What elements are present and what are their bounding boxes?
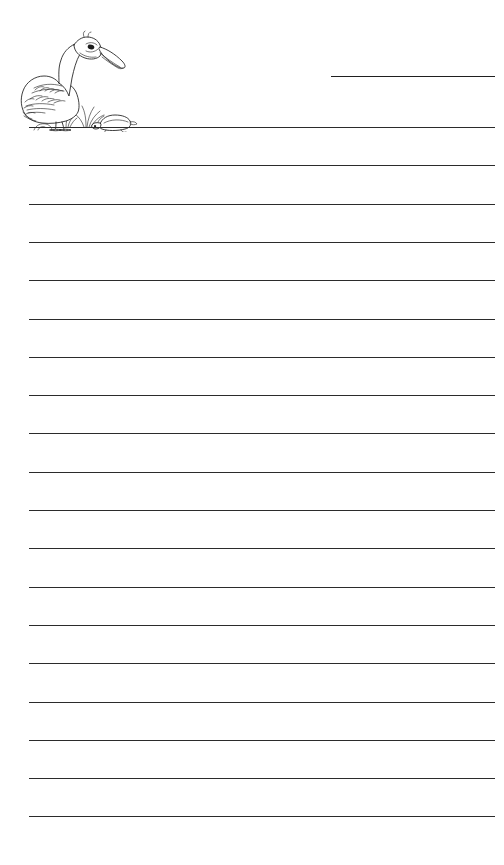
grass-tuft-small-icon: [66, 115, 77, 127]
writing-line-16[interactable]: [29, 702, 495, 703]
writing-line-11[interactable]: [29, 510, 495, 511]
wing-feather-detail-icon: [23, 84, 65, 121]
writing-line-17[interactable]: [29, 740, 495, 741]
stationery-page: [0, 0, 504, 865]
writing-line-7[interactable]: [29, 357, 495, 358]
writing-line-2[interactable]: [29, 165, 495, 166]
pelican-on-shore-illustration: [12, 26, 142, 132]
writing-line-3[interactable]: [29, 204, 495, 205]
grass-tuft-icon: [75, 106, 107, 127]
writing-line-4[interactable]: [29, 242, 495, 243]
writing-line-19[interactable]: [29, 816, 495, 817]
writing-line-14[interactable]: [29, 625, 495, 626]
writing-line-10[interactable]: [29, 472, 495, 473]
turtle-icon: [92, 115, 137, 132]
writing-line-9[interactable]: [29, 433, 495, 434]
writing-line-8[interactable]: [29, 395, 495, 396]
writing-line-12[interactable]: [29, 548, 495, 549]
writing-line-5[interactable]: [29, 280, 495, 281]
writing-line-15[interactable]: [29, 663, 495, 664]
title-write-line[interactable]: [331, 76, 495, 77]
writing-line-1[interactable]: [29, 127, 495, 128]
pelican-body-icon: [21, 31, 125, 123]
writing-line-13[interactable]: [29, 587, 495, 588]
writing-line-18[interactable]: [29, 778, 495, 779]
writing-line-6[interactable]: [29, 319, 495, 320]
